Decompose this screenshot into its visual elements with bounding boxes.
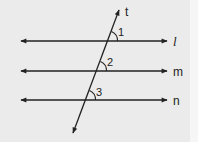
label-line-m: m: [173, 65, 183, 79]
label-line-n: n: [173, 94, 180, 108]
angle-label-2: 2: [107, 56, 113, 68]
diagram-canvas: t l m n 1 2 3: [0, 0, 198, 142]
label-line-l: l: [173, 34, 177, 49]
parallel-lines-figure: t l m n 1 2 3: [0, 0, 198, 142]
label-t: t: [125, 5, 129, 19]
angle-label-3: 3: [96, 86, 102, 98]
angle-arc-1: [112, 32, 118, 42]
angle-arc-3: [90, 91, 96, 101]
angle-arc-2: [101, 62, 107, 72]
angle-label-1: 1: [118, 26, 124, 38]
